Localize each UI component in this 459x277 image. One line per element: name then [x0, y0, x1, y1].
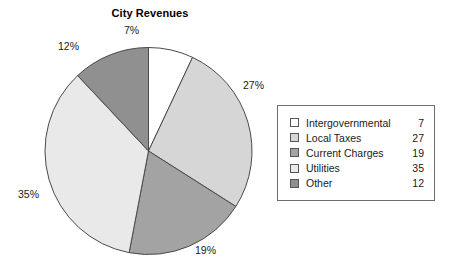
legend-label: Utilities [306, 162, 408, 174]
slice-label-local-taxes: 27% [243, 79, 264, 91]
legend-row: Intergovernmental 7 [290, 115, 424, 130]
legend-label: Intergovernmental [306, 117, 408, 129]
legend-swatch-icon [290, 133, 299, 142]
slice-label-intergovernmental: 7% [124, 24, 139, 36]
legend-value: 7 [408, 117, 424, 129]
chart-legend: Intergovernmental 7 Local Taxes 27 Curre… [277, 105, 435, 201]
legend-row: Current Charges 19 [290, 145, 424, 160]
slice-label-current-charges: 19% [195, 244, 216, 256]
legend-row: Utilities 35 [290, 161, 424, 176]
legend-row: Other 12 [290, 176, 424, 191]
legend-swatch-icon [290, 148, 299, 157]
slice-label-other: 12% [58, 40, 79, 52]
slice-label-utilities: 35% [18, 188, 39, 200]
legend-row-list: Intergovernmental 7 Local Taxes 27 Curre… [290, 115, 424, 191]
legend-value: 27 [408, 132, 424, 144]
legend-row: Local Taxes 27 [290, 130, 424, 145]
legend-value: 12 [408, 177, 424, 189]
legend-swatch-icon [290, 164, 299, 173]
legend-swatch-icon [290, 179, 299, 188]
legend-value: 19 [408, 147, 424, 159]
pie-chart-figure: City Revenues 7% 27% 19% 35% 12% Intergo… [0, 0, 459, 277]
legend-label: Current Charges [306, 147, 408, 159]
legend-label: Other [306, 177, 408, 189]
legend-label: Local Taxes [306, 132, 408, 144]
legend-value: 35 [408, 162, 424, 174]
legend-swatch-icon [290, 118, 299, 127]
